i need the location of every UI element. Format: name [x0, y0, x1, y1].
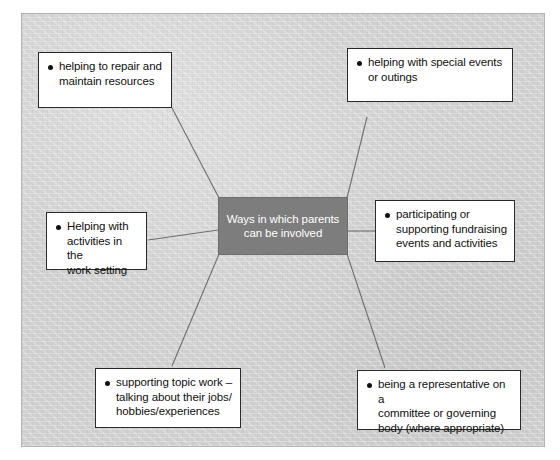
bullet-icon [357, 61, 362, 66]
node-label: helping with special events or outings [368, 55, 502, 84]
node-topic-work[interactable]: supporting topic work – talking about th… [95, 368, 241, 428]
node-repair-resources[interactable]: helping to repair and maintain resources [38, 52, 172, 108]
connector-to-work-setting [148, 230, 218, 240]
node-label: helping to repair and maintain resources [59, 59, 162, 88]
connector-to-special-events [347, 117, 367, 198]
node-center-topic[interactable]: Ways in which parents can be involved [218, 197, 348, 255]
bullet-icon [367, 383, 372, 388]
connector-to-topic-work [172, 254, 219, 366]
center-label: Ways in which parents can be involved [221, 212, 346, 241]
node-label: Helping with activities in the work sett… [67, 219, 139, 277]
node-work-setting-activities[interactable]: Helping with activities in the work sett… [46, 212, 147, 270]
node-committee-representative[interactable]: being a representative on a committee or… [357, 370, 521, 430]
node-label: being a representative on a committee or… [378, 377, 513, 435]
bullet-icon [385, 213, 390, 218]
bullet-icon [48, 65, 53, 70]
diagram-root: helping to repair and maintain resources… [0, 0, 560, 460]
node-fundraising[interactable]: participating or supporting fundraising … [375, 200, 515, 262]
node-label: supporting topic work – talking about th… [116, 375, 232, 419]
connector-to-committee [347, 254, 385, 368]
connector-to-repair-resources [172, 108, 219, 198]
bullet-icon [105, 381, 110, 386]
node-label: participating or supporting fundraising … [396, 207, 507, 251]
bullet-icon [56, 225, 61, 230]
node-special-events[interactable]: helping with special events or outings [347, 48, 513, 102]
